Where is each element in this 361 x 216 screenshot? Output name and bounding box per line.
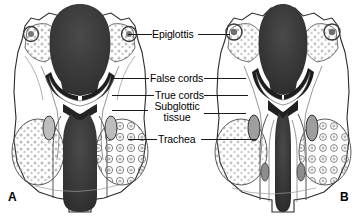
leader-false-cords-left bbox=[112, 78, 149, 79]
right-tracheal-ring bbox=[297, 163, 305, 181]
leader-trachea-right bbox=[201, 139, 257, 140]
left-cricoid-cartilage bbox=[43, 116, 55, 140]
panel-b-drawing bbox=[208, 0, 358, 216]
panel-a-drawing bbox=[5, 0, 155, 216]
panel-a-normal-airway bbox=[5, 0, 155, 216]
right-cricoid-cartilage bbox=[105, 116, 117, 140]
leader-epiglottis-right bbox=[198, 34, 230, 35]
panel-letter-a: A bbox=[8, 190, 17, 204]
label-false-cords: False cords bbox=[150, 73, 203, 84]
left-gland-mass bbox=[12, 119, 64, 185]
tracheal-lumen-narrowed bbox=[275, 112, 291, 212]
label-subglottic-tissue: Subglottic tissue bbox=[148, 101, 206, 122]
leader-subglottic-left bbox=[112, 110, 148, 111]
left-nodule-core bbox=[231, 29, 237, 35]
leader-true-cords-left bbox=[112, 95, 154, 96]
leader-epiglottis-left bbox=[128, 34, 152, 35]
right-gland-mass bbox=[96, 119, 148, 185]
right-cricoid-cartilage bbox=[306, 115, 318, 141]
label-trachea: Trachea bbox=[158, 134, 195, 145]
label-subglottic-line1: Subglottic bbox=[148, 101, 206, 112]
label-subglottic-line2: tissue bbox=[148, 112, 206, 123]
panel-b-narrowed-airway bbox=[208, 0, 358, 216]
leader-subglottic-right bbox=[204, 113, 246, 114]
panel-letter-b: B bbox=[340, 190, 349, 204]
label-true-cords: True cords bbox=[155, 90, 204, 101]
leader-false-cords-right bbox=[204, 78, 246, 79]
leader-trachea-left bbox=[128, 139, 157, 140]
left-cricoid-cartilage bbox=[248, 115, 260, 141]
leader-true-cords-right bbox=[204, 95, 248, 96]
label-epiglottis: Epiglottis bbox=[152, 29, 194, 40]
right-nodule-core bbox=[329, 29, 335, 35]
tracheal-lumen bbox=[63, 114, 97, 212]
left-tracheal-ring bbox=[261, 163, 269, 181]
anatomy-figure: Epiglottis False cords True cords Subglo… bbox=[0, 0, 361, 216]
left-nodule-core bbox=[28, 31, 34, 37]
